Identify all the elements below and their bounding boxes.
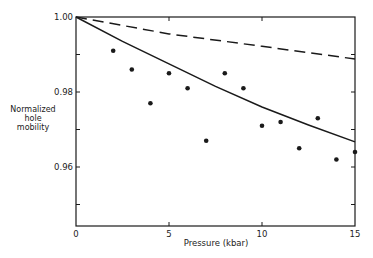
data-point [148, 101, 153, 106]
solid-curve [76, 17, 355, 142]
y-tick-label: 0.96 [54, 162, 73, 172]
model-curves [76, 17, 355, 142]
y-axis-label: Normalized hole mobility [2, 105, 64, 132]
x-axis-label: Pressure (kbar) [184, 238, 249, 248]
x-tick-label: 0 [73, 229, 78, 239]
data-point [185, 86, 190, 91]
y-tick-label: 1.00 [54, 12, 73, 22]
data-point [111, 48, 116, 53]
y-tick-label: 0.98 [54, 87, 73, 97]
data-point [223, 71, 228, 76]
data-point [130, 67, 135, 72]
data-point [316, 116, 321, 121]
data-point [260, 123, 265, 128]
y-axis-label-line-2: hole [2, 114, 64, 123]
data-point [167, 71, 172, 76]
x-tick-label: 10 [257, 229, 268, 239]
axis-ticks [76, 17, 355, 226]
data-points [111, 48, 357, 161]
data-point [278, 120, 283, 125]
data-point [334, 157, 339, 162]
data-point [204, 138, 209, 143]
plot-frame [76, 17, 355, 226]
tick-labels: 0510150.960.981.00 [54, 12, 360, 239]
y-axis-label-line-3: mobility [2, 123, 64, 132]
x-tick-label: 5 [166, 229, 171, 239]
dashed-curve [76, 17, 355, 59]
y-axis-label-line-1: Normalized [2, 105, 64, 114]
x-tick-label: 15 [350, 229, 361, 239]
data-point [353, 150, 358, 155]
plot-border [76, 17, 355, 226]
data-point [297, 146, 302, 151]
data-point [241, 86, 246, 91]
